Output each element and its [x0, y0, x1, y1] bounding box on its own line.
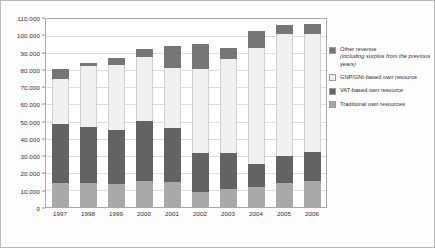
y-tick-label: 40.000: [20, 135, 40, 142]
segment-vat: [220, 153, 237, 189]
x-tick-label: 2002: [192, 210, 209, 224]
legend-label: Other revenue (including surplus from th…: [340, 46, 433, 68]
segment-gnp-gni: [248, 48, 265, 164]
bar-column[interactable]: [80, 19, 97, 207]
y-tick-label: 10.000: [20, 187, 40, 194]
x-tick-label: 2004: [248, 210, 265, 224]
bar-column[interactable]: [52, 19, 69, 207]
bar-series-container: [46, 19, 326, 207]
legend-item-gnp-gni[interactable]: GNP/GNI-based own resource: [329, 74, 433, 82]
segment-vat: [52, 124, 69, 183]
segment-other-revenue: [220, 48, 237, 59]
gnp-gni-swatch: [329, 74, 336, 81]
segment-gnp-gni: [304, 34, 321, 153]
bar-column[interactable]: [304, 19, 321, 207]
y-tick-label: 80.000: [20, 66, 40, 73]
y-tick-label: 110.000: [17, 15, 40, 22]
segment-other-revenue: [276, 25, 293, 34]
y-tick-label: 100.000: [17, 32, 40, 39]
x-tick-label: 1997: [52, 210, 69, 224]
segment-traditional: [164, 182, 181, 207]
x-tick-label: 2000: [136, 210, 153, 224]
segment-traditional: [136, 181, 153, 207]
bar-column[interactable]: [276, 19, 293, 207]
bar-column[interactable]: [192, 19, 209, 207]
bar-column[interactable]: [108, 19, 125, 207]
segment-traditional: [304, 181, 321, 207]
y-tick-label: 50.000: [20, 118, 40, 125]
segment-vat: [164, 128, 181, 182]
legend-label-main: Other revenue: [340, 46, 376, 52]
segment-gnp-gni: [136, 57, 153, 121]
segment-traditional: [52, 183, 69, 207]
segment-other-revenue: [248, 31, 265, 48]
segment-traditional: [248, 187, 265, 208]
segment-gnp-gni: [52, 79, 69, 124]
x-tick-label: 2006: [304, 210, 321, 224]
x-tick-label: 2005: [276, 210, 293, 224]
y-tick-label: 60.000: [20, 101, 40, 108]
legend-label: Traditional own resources: [340, 101, 405, 108]
legend-item-other-revenue[interactable]: Other revenue (including surplus from th…: [329, 46, 433, 68]
y-axis: 110.000 100.000 90.000 80.000 70.000 60.…: [1, 18, 45, 208]
y-tick-label: 30.000: [20, 153, 40, 160]
segment-traditional: [220, 189, 237, 207]
segment-gnp-gni: [164, 68, 181, 129]
y-tick-label: 90.000: [20, 49, 40, 56]
y-tick-label: 20.000: [20, 170, 40, 177]
segment-gnp-gni: [276, 34, 293, 155]
traditional-swatch: [329, 101, 336, 108]
segment-vat: [136, 121, 153, 182]
y-tick-label: 70.000: [20, 84, 40, 91]
legend-item-vat[interactable]: VAT-based own resource: [329, 87, 433, 95]
x-axis: 1997199819992000200120022003200420052006: [46, 210, 326, 224]
legend-label: VAT-based own resource: [340, 87, 403, 94]
segment-vat: [108, 130, 125, 184]
segment-traditional: [276, 183, 293, 207]
bar-column[interactable]: [164, 19, 181, 207]
segment-vat: [80, 127, 97, 183]
segment-gnp-gni: [192, 69, 209, 154]
x-tick-label: 2001: [164, 210, 181, 224]
y-tick-label: 0: [36, 205, 40, 212]
segment-gnp-gni: [220, 59, 237, 153]
segment-other-revenue: [136, 49, 153, 57]
x-tick-label: 1998: [80, 210, 97, 224]
segment-other-revenue: [52, 69, 69, 78]
legend-item-traditional[interactable]: Traditional own resources: [329, 101, 433, 109]
x-tick-label: 2003: [220, 210, 237, 224]
legend-label: GNP/GNI-based own resource: [340, 74, 417, 81]
segment-vat: [276, 156, 293, 183]
segment-vat: [248, 164, 265, 186]
segment-vat: [192, 153, 209, 191]
segment-vat: [304, 152, 321, 181]
other-revenue-swatch: [329, 47, 336, 54]
segment-gnp-gni: [80, 66, 97, 127]
legend-label-sub: (including surplus from the previous yea…: [340, 53, 433, 68]
segment-other-revenue: [164, 46, 181, 68]
bar-column[interactable]: [220, 19, 237, 207]
vat-swatch: [329, 88, 336, 95]
segment-traditional: [108, 184, 125, 207]
segment-gnp-gni: [108, 65, 125, 130]
x-tick-label: 1999: [108, 210, 125, 224]
bar-column[interactable]: [248, 19, 265, 207]
segment-traditional: [192, 192, 209, 207]
segment-other-revenue: [192, 44, 209, 69]
bar-column[interactable]: [136, 19, 153, 207]
segment-other-revenue: [304, 24, 321, 33]
segment-other-revenue: [108, 58, 125, 65]
segment-traditional: [80, 183, 97, 207]
chart-figure: 110.000 100.000 90.000 80.000 70.000 60.…: [0, 0, 435, 248]
chart-legend: Other revenue (including surplus from th…: [329, 46, 433, 114]
